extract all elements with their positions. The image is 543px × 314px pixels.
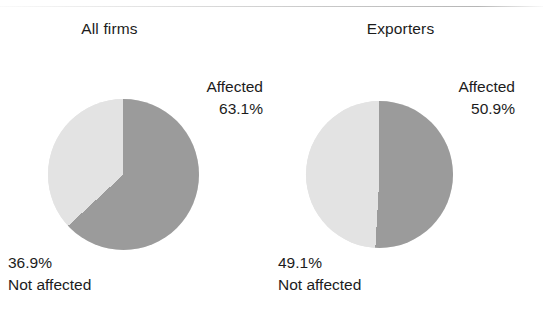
callout-affected-exporters: Affected 50.9% — [458, 76, 515, 120]
callout-not-affected-value: 36.9% — [8, 252, 91, 274]
callout-not-affected-label: Not affected — [8, 274, 91, 296]
pie-slices-all-firms — [48, 99, 199, 250]
callout-not-affected-exporters: 49.1% Not affected — [278, 252, 361, 296]
chart-title-all-firms: All firms — [0, 20, 247, 38]
callout-affected-value: 63.1% — [206, 98, 263, 120]
pie-chart-figure: All firms Affected 63.1% 36.9% Not affec… — [0, 0, 543, 314]
pie-slices-exporters — [306, 101, 453, 248]
callout-affected-label: Affected — [458, 76, 515, 98]
chart-panel-exporters: Exporters Affected 50.9% 49.1% Not affec… — [268, 0, 543, 314]
pie-chart-exporters — [306, 101, 453, 248]
chart-title-exporters: Exporters — [263, 20, 538, 38]
chart-panel-all-firms: All firms Affected 63.1% 36.9% Not affec… — [0, 0, 275, 314]
pie-chart-all-firms — [48, 99, 199, 250]
callout-affected-label: Affected — [206, 76, 263, 98]
callout-affected-value: 50.9% — [458, 98, 515, 120]
callout-not-affected-value: 49.1% — [278, 252, 361, 274]
callout-affected-all-firms: Affected 63.1% — [206, 76, 263, 120]
callout-not-affected-all-firms: 36.9% Not affected — [8, 252, 91, 296]
callout-not-affected-label: Not affected — [278, 274, 361, 296]
